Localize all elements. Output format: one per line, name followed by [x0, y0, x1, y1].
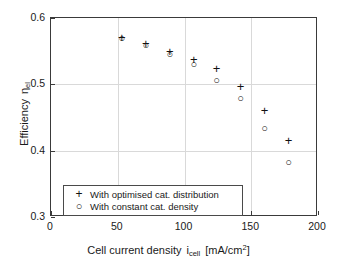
- gridline-vertical: [251, 18, 252, 215]
- y-axis-title-prefix: Efficiency: [18, 99, 30, 146]
- circle-marker-icon: ○: [118, 32, 125, 43]
- x-axis-title-prefix: Cell current density: [87, 244, 181, 256]
- circle-marker-icon: ○: [261, 123, 268, 134]
- x-tick-label: 150: [235, 221, 265, 231]
- circle-marker-icon: ○: [237, 93, 244, 104]
- y-tick-label: 0.3: [19, 211, 45, 221]
- legend-label-optimised: With optimised cat. distribution: [90, 189, 219, 200]
- legend-item-optimised: + With optimised cat. distribution: [68, 188, 238, 200]
- gridline-horizontal: [51, 151, 316, 152]
- y-axis-symbol-subscript: el: [23, 82, 32, 88]
- legend-label-constant: With constant cat. density: [90, 201, 198, 212]
- x-axis-tick: [51, 211, 52, 215]
- x-axis-title: Cell current densityicell[mA/cm2]: [0, 244, 337, 256]
- x-axis-tick: [318, 211, 319, 215]
- plus-marker-icon: +: [261, 103, 269, 116]
- plus-marker-icon: +: [237, 79, 245, 92]
- circle-marker-icon: ○: [213, 75, 220, 86]
- x-axis-symbol-subscript: cell: [189, 249, 200, 258]
- x-tick-label: 0: [35, 221, 65, 231]
- y-axis-symbol: η: [18, 88, 30, 94]
- circle-marker-icon: ○: [166, 49, 173, 60]
- y-tick-label: 0.6: [19, 12, 45, 22]
- legend-item-constant: ○ With constant cat. density: [68, 200, 238, 212]
- x-axis-units-exponent: 2: [242, 243, 246, 252]
- x-tick-label: 200: [302, 221, 332, 231]
- x-tick-label: 50: [102, 221, 132, 231]
- y-axis-tick: [51, 18, 55, 19]
- circle-marker-icon: ○: [68, 201, 90, 212]
- y-axis-tick: [51, 217, 55, 218]
- plus-marker-icon: +: [68, 189, 90, 200]
- y-axis-tick: [51, 84, 55, 85]
- y-axis-title: Efficiencyηel: [18, 44, 30, 184]
- figure-canvas: ++++++++○○○○○○○○ 0.30.40.50.6 0501001502…: [0, 0, 337, 268]
- legend-box: + With optimised cat. distribution ○ Wit…: [63, 185, 243, 216]
- circle-marker-icon: ○: [191, 58, 198, 69]
- x-axis-units-close: ]: [247, 244, 250, 256]
- x-axis-tick: [251, 211, 252, 215]
- x-axis-units-open: [mA/cm: [205, 244, 242, 256]
- circle-marker-icon: ○: [285, 156, 292, 167]
- plus-marker-icon: +: [285, 134, 293, 147]
- x-tick-label: 100: [169, 221, 199, 231]
- circle-marker-icon: ○: [142, 39, 149, 50]
- y-axis-tick: [51, 151, 55, 152]
- gridline-horizontal: [51, 84, 316, 85]
